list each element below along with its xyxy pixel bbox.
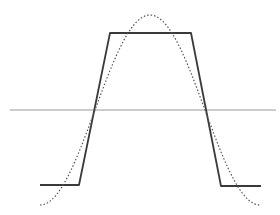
waveform-diagram [0, 0, 280, 215]
